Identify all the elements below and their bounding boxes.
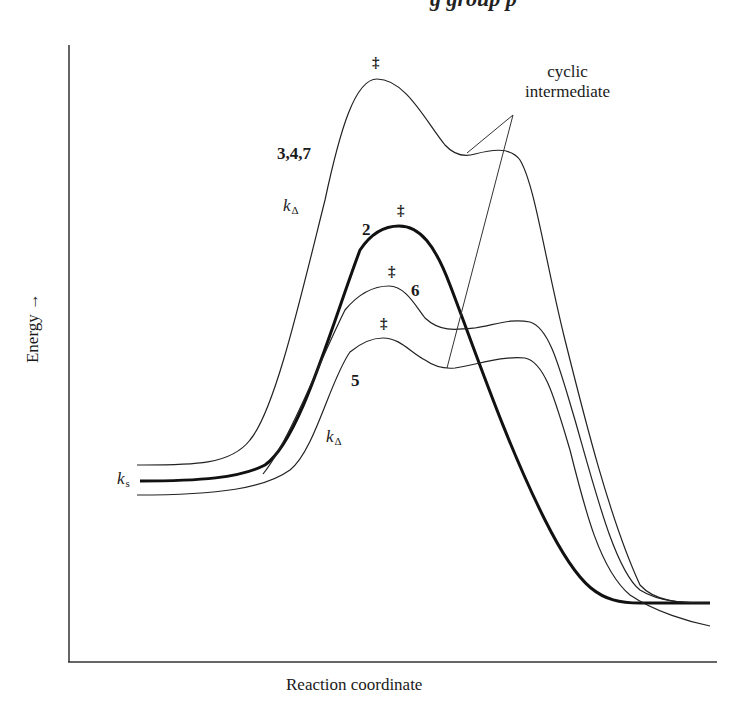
cyclic-intermediate-label: cyclic intermediate — [525, 62, 610, 101]
cyclic-label-line1: cyclic — [525, 62, 610, 82]
rate-label-k-delta-upper: kΔ — [283, 197, 299, 216]
curve-5 — [137, 338, 710, 626]
dagger-ts-6: ‡ — [388, 264, 396, 279]
label-curve-6: 6 — [411, 282, 420, 299]
energy-diagram — [0, 0, 747, 705]
dagger-ts-5: ‡ — [380, 316, 388, 331]
label-curve-3-4-7: 3,4,7 — [277, 145, 311, 162]
rate-label-k-s: ks — [117, 470, 130, 489]
x-axis-label: Reaction coordinate — [286, 675, 422, 695]
y-axis-label: Energy → — [23, 293, 43, 363]
dagger-ts-2: ‡ — [397, 203, 405, 218]
label-curve-5: 5 — [351, 372, 360, 389]
curve-3-4-7 — [137, 79, 710, 603]
dagger-ts-347: ‡ — [372, 55, 380, 70]
label-curve-2: 2 — [362, 221, 371, 238]
rate-label-k-delta-lower: kΔ — [326, 428, 342, 447]
cyclic-label-line2: intermediate — [525, 82, 610, 102]
cyclic-pointer-upper — [467, 115, 513, 153]
